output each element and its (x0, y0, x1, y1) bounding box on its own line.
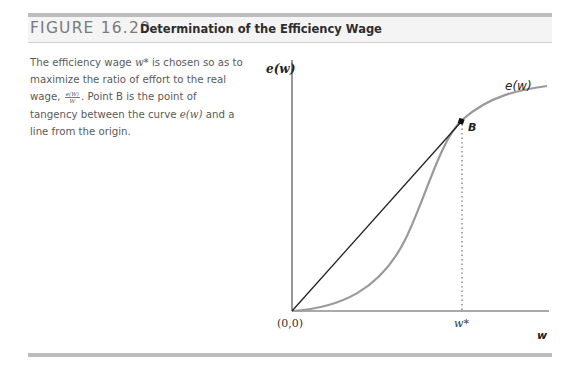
effort-curve (292, 86, 547, 311)
wstar-label: w* (454, 317, 469, 330)
ray-from-origin (292, 122, 461, 311)
efficiency-wage-chart: e(w) w (0,0) w* e(w) B (0, 0, 582, 377)
bottom-rule (28, 353, 552, 357)
x-axis-label: w (537, 329, 548, 342)
point-b-label: B (468, 121, 476, 134)
y-axis-label: e(w) (266, 62, 295, 76)
curve-label: e(w) (505, 79, 532, 93)
origin-label: (0,0) (277, 317, 303, 330)
